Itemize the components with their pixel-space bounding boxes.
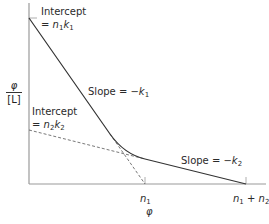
intercept1-value: = n1k1: [41, 19, 74, 34]
slope2-label: Slope = −k2: [181, 155, 242, 170]
intercept1-label: Intercept: [41, 6, 86, 18]
n1-plus-n2-tick-label: n1 + n2: [233, 193, 269, 208]
intercept2-value: = n2k2: [32, 119, 65, 134]
x-axis-label: φ: [146, 206, 153, 218]
intercept2-label: Intercept: [32, 106, 77, 118]
y-label-denominator: [L]: [6, 94, 22, 105]
fraction-bar: [6, 92, 22, 93]
y-axis-label: φ [L]: [6, 80, 22, 105]
slope1-label: Slope = −k1: [88, 86, 149, 101]
y-label-numerator: φ: [6, 80, 22, 91]
shallow-asymptote-dashed: [29, 130, 145, 159]
